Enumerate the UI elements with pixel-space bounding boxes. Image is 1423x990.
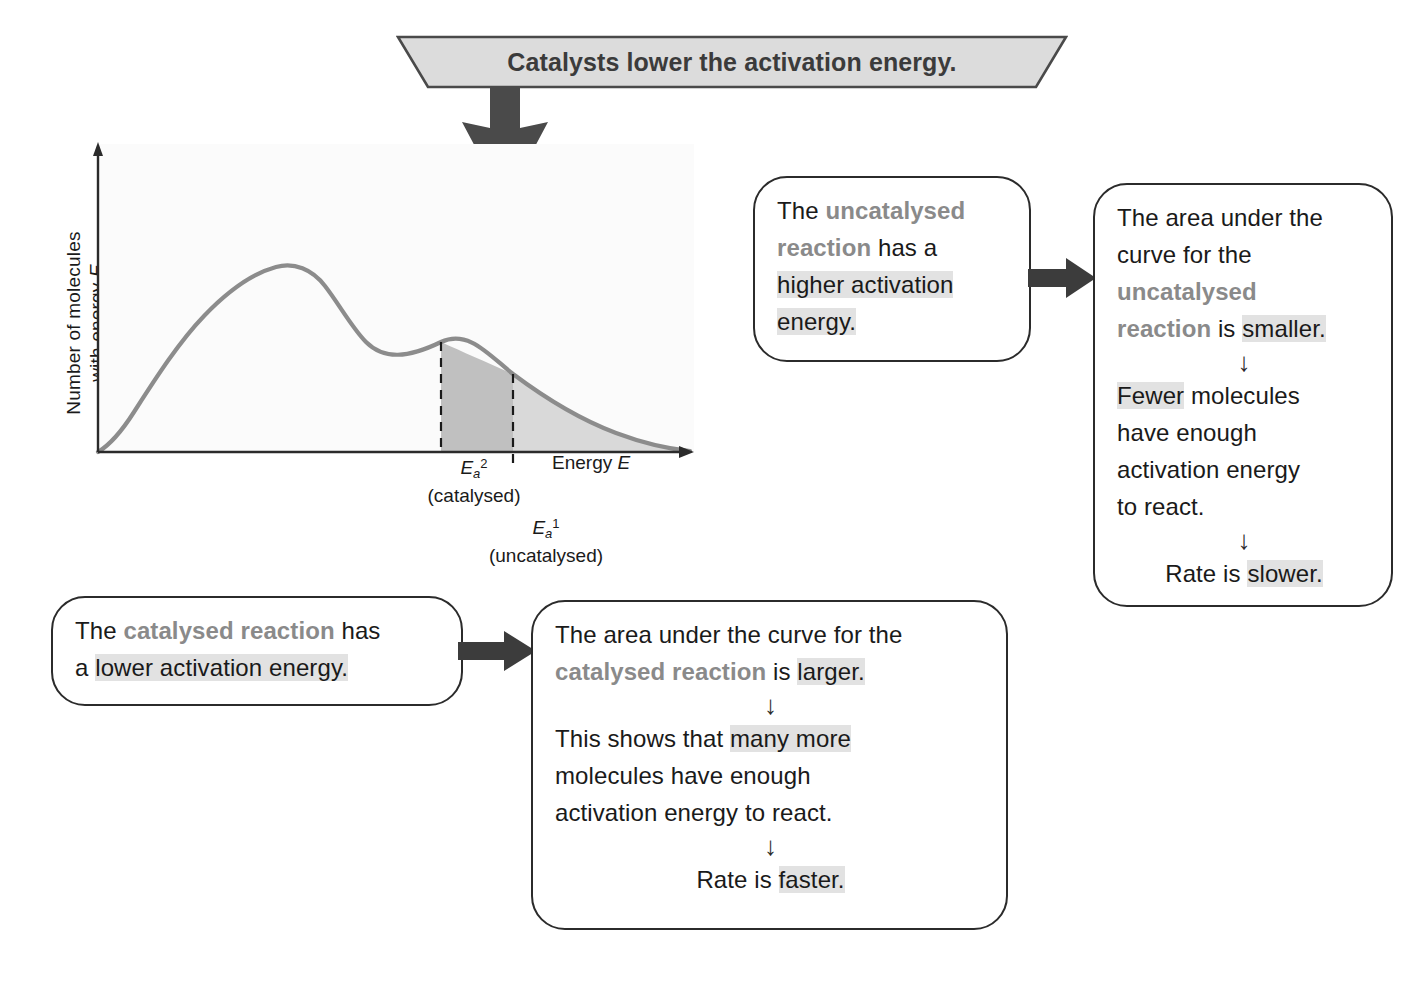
uncat-chain-bold2: reaction [1117,315,1211,342]
uncat-intro-l4-hl: energy. [777,308,856,335]
uncat-chain-p1hl: smaller. [1242,315,1326,342]
distribution-chart: Number of molecules with energy E Ea2 (c… [36,140,706,560]
callout-uncatalysed-intro-text: The uncatalysed reaction has a higher ac… [755,178,1029,354]
ea1-note: (uncatalysed) [489,545,603,566]
chart-plot [36,140,706,470]
cat-chain-bold: catalysed reaction [555,658,766,685]
ea1-tick-label: Ea1 (uncatalysed) [456,513,636,567]
cat-intro-l1b: has [335,617,381,644]
chart-panel-background [98,144,694,452]
uncat-chain-p2l4: to react. [1117,493,1205,520]
banner: Catalysts lower the activation energy. [396,34,1068,90]
callout-catalysed-intro-text: The catalysed reaction has a lower activ… [53,598,461,700]
cat-chain-rate-line: Rate is faster. [555,861,986,898]
uncat-chain-rate-line: Rate is slower. [1117,555,1371,592]
cat-intro-l1-bold: catalysed reaction [123,617,334,644]
ea1-symbol: E [532,517,545,538]
callout-catalysed-intro: The catalysed reaction has a lower activ… [51,596,463,706]
uncat-chain-p2l2: have enough [1117,419,1257,446]
callout-uncatalysed-consequences: The area under the curve for the uncatal… [1093,183,1393,607]
uncat-chain-p1tail: is [1211,315,1242,342]
uncat-chain-p2l3: activation energy [1117,456,1300,483]
cat-chain-p1hl: larger. [797,658,864,685]
ea2-superscript: 2 [480,456,487,471]
uncat-intro-l2-bold: reaction [777,234,871,261]
down-tick-arrow-icon-3: ↓ [555,690,986,720]
cat-chain-p1tail: is [766,658,797,685]
cat-intro-l2-hl: lower activation energy. [95,654,348,681]
uncat-chain-bold1: uncatalysed [1117,278,1257,305]
cat-chain-p3pre: Rate is [696,866,778,893]
ea2-note: (catalysed) [428,485,521,506]
connector-arrow-right-bottom [458,628,538,674]
banner-label: Catalysts lower the activation energy. [396,34,1068,90]
ea2-symbol: E [460,457,473,478]
cat-intro-l2a: a [75,654,95,681]
uncat-chain-p1l2: curve for the [1117,241,1252,268]
x-axis-label-text: Energy [552,452,617,473]
down-tick-arrow-icon-1: ↓ [1117,347,1371,377]
uncat-chain-p3hl: slower. [1247,560,1322,587]
cat-chain-p2pre: This shows that [555,725,730,752]
cat-chain-p2l3: activation energy to react. [555,799,833,826]
uncat-chain-p2hl: Fewer [1117,382,1184,409]
cat-chain-p3hl: faster. [779,866,845,893]
down-tick-arrow-icon-2: ↓ [1117,525,1371,555]
x-axis-label: Energy E [552,452,630,474]
callout-uncatalysed-consequences-text: The area under the curve for the uncatal… [1095,185,1391,606]
down-tick-arrow-icon-4: ↓ [555,831,986,861]
page-title-text: CATALYSTS AND ACTIVATION ENERGY [18,0,638,4]
cat-chain-p2hl: many more [730,725,851,752]
uncat-intro-l2b: has a [871,234,937,261]
page-title: CATALYSTS AND ACTIVATION ENERGY [18,0,638,4]
cat-intro-l1a: The [75,617,123,644]
x-axis-label-symbol: E [617,452,630,473]
uncat-chain-p3pre: Rate is [1165,560,1247,587]
uncat-intro-l1-bold: uncatalysed [825,197,965,224]
callout-catalysed-consequences-text: The area under the curve for the catalys… [533,602,1006,912]
cat-chain-p2l2: molecules have enough [555,762,811,789]
connector-arrow-right-top [1028,255,1098,301]
callout-catalysed-consequences: The area under the curve for the catalys… [531,600,1008,930]
uncat-chain-p2rest: molecules [1184,382,1300,409]
callout-uncatalysed-intro: The uncatalysed reaction has a higher ac… [753,176,1031,362]
uncat-chain-p1l1: The area under the [1117,204,1323,231]
uncat-intro-l1a: The [777,197,825,224]
ea1-superscript: 1 [552,516,559,531]
uncat-intro-l3-hl: higher activation [777,271,953,298]
cat-chain-p1l1: The area under the curve for the [555,621,902,648]
ea2-tick-label: Ea2 (catalysed) [384,453,564,507]
